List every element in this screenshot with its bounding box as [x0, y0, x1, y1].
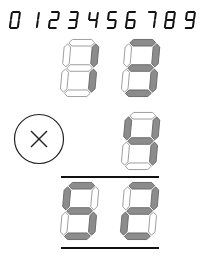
segment-e: [60, 212, 69, 235]
reference-digit-2: [47, 10, 61, 30]
bottom-rule: [61, 247, 159, 249]
reference-digit-0: [8, 10, 22, 30]
product-digit-ones: 2: [119, 182, 159, 240]
segment-d: [124, 233, 150, 240]
segment-d: [125, 163, 151, 170]
reference-digit-4: [86, 10, 100, 30]
reference-digit-7: [144, 10, 158, 30]
multiplicand-digit-tens: 1: [59, 39, 99, 97]
segment-f: [62, 44, 71, 67]
segment-f: [122, 187, 131, 210]
segment-a: [130, 39, 156, 46]
segment-b: [150, 187, 159, 210]
reference-digit-9: [183, 10, 197, 30]
segment-c: [88, 212, 97, 235]
segment-a: [129, 182, 155, 189]
segment-a: [69, 182, 95, 189]
segment-g: [66, 208, 92, 215]
multiply-operator: ×: [13, 113, 65, 165]
segment-d: [64, 90, 90, 97]
segment-g: [127, 138, 153, 145]
reference-digit-8: [163, 10, 177, 30]
multiply-circle-icon: [13, 113, 65, 165]
segment-c: [88, 69, 97, 92]
segment-e: [121, 142, 130, 165]
segment-a: [69, 39, 95, 46]
segment-c: [148, 212, 157, 235]
segment-f: [123, 44, 132, 67]
segment-e: [60, 69, 69, 92]
segment-c: [149, 69, 158, 92]
multiplicand-digit-ones: 3: [120, 39, 160, 97]
reference-digit-3: [66, 10, 80, 30]
segment-g: [126, 208, 152, 215]
product-digit-tens: 5: [59, 182, 99, 240]
top-rule: [61, 176, 159, 178]
segment-b: [90, 187, 99, 210]
reference-digit-1: [27, 10, 41, 30]
multiplier-digit: 4: [120, 112, 160, 170]
segment-d: [125, 90, 151, 97]
segment-g: [66, 65, 92, 72]
segment-c: [149, 142, 158, 165]
reference-digit-5: [105, 10, 119, 30]
segment-b: [151, 44, 160, 67]
segment-e: [120, 212, 129, 235]
segment-e: [121, 69, 130, 92]
segment-b: [151, 117, 160, 140]
reference-digit-6: [124, 10, 138, 30]
segment-f: [62, 187, 71, 210]
segment-a: [130, 112, 156, 119]
digit-reference-row: [6, 10, 202, 32]
segment-d: [64, 233, 90, 240]
segment-f: [123, 117, 132, 140]
segment-b: [90, 44, 99, 67]
segment-g: [127, 65, 153, 72]
